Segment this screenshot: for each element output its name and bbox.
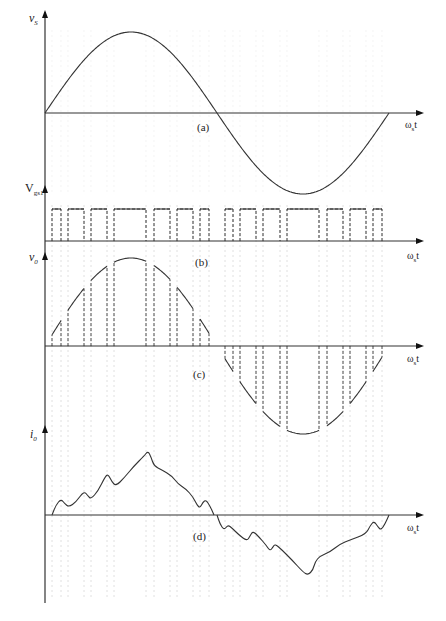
waveform-figure: [0, 0, 446, 621]
output-voltage-segment: [287, 430, 319, 434]
output-voltage-segment: [154, 266, 170, 280]
output-voltage-segment: [177, 287, 193, 308]
output-voltage-segment: [68, 288, 84, 310]
panel-caption-b: (b): [195, 256, 208, 268]
x-axis-arrow-icon: [416, 343, 424, 349]
gate-pulse: [263, 209, 280, 241]
output-current-positive: [52, 452, 214, 515]
y-axis-label-a: vS: [29, 11, 38, 27]
output-voltage-segment: [240, 382, 256, 404]
output-voltage-segment: [263, 412, 280, 427]
gate-pulse: [154, 209, 170, 241]
x-axis-label-b: ωst: [407, 250, 419, 264]
output-voltage-segment: [52, 321, 61, 335]
x-axis-label-c: ωst: [407, 353, 419, 367]
gate-pulse: [200, 209, 209, 241]
x-axis-arrow-icon: [416, 238, 424, 244]
x-axis-arrow-icon: [416, 110, 424, 116]
gate-pulse: [52, 209, 61, 241]
gate-pulse: [350, 209, 366, 241]
y-axis-arrow-icon: [42, 425, 48, 433]
panel-caption-a: (a): [197, 121, 209, 133]
output-voltage-segment: [200, 319, 209, 333]
y-axis-label-b: Vgs1: [25, 181, 43, 197]
x-axis-arrow-icon: [416, 512, 424, 518]
output-voltage-segment: [114, 258, 146, 262]
y-axis-label-c: v0: [29, 250, 38, 266]
gate-pulse: [240, 209, 256, 241]
gate-pulse: [114, 209, 146, 241]
output-voltage-segment: [373, 357, 382, 371]
gate-pulse: [327, 209, 343, 241]
panel-caption-d: (d): [193, 530, 206, 542]
gate-pulse: [91, 209, 107, 241]
gate-pulse: [177, 209, 193, 241]
x-axis-label-d: ωst: [407, 522, 419, 536]
output-voltage-segment: [350, 382, 366, 404]
gate-pulse: [225, 209, 233, 241]
gate-pulse: [68, 209, 84, 241]
panel-caption-c: (c): [193, 368, 205, 380]
output-voltage-segment: [327, 412, 343, 426]
y-axis-arrow-icon: [42, 10, 48, 18]
gate-pulse: [373, 209, 382, 241]
y-axis-arrow-icon: [42, 252, 48, 260]
output-current-negative: [217, 515, 389, 574]
x-axis-label-a: ωst: [405, 119, 417, 133]
y-axis-label-d: i0: [30, 427, 37, 443]
output-voltage-segment: [91, 266, 107, 280]
output-voltage-segment: [225, 359, 233, 372]
gate-pulse: [287, 209, 319, 241]
